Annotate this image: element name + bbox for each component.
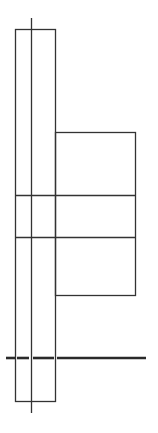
diagram-canvas <box>0 0 158 433</box>
side-box <box>56 133 136 296</box>
tall-rectangle <box>16 30 56 402</box>
